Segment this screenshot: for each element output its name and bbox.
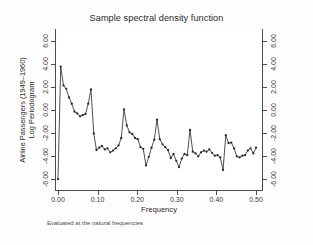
x-tick-label: 0.00 xyxy=(43,196,73,203)
x-tick xyxy=(58,191,59,195)
data-point xyxy=(137,138,139,140)
data-point xyxy=(57,178,59,180)
data-point xyxy=(247,149,249,151)
data-point xyxy=(238,156,240,158)
data-point xyxy=(192,151,194,153)
data-point xyxy=(123,108,125,110)
data-point xyxy=(241,155,243,157)
x-tick-label: 0.30 xyxy=(162,196,192,203)
data-point xyxy=(172,153,174,155)
data-point xyxy=(150,147,152,149)
data-point xyxy=(214,155,216,157)
data-point xyxy=(101,145,103,147)
data-point xyxy=(216,154,218,156)
data-point xyxy=(71,103,73,105)
data-point xyxy=(117,144,119,146)
data-point xyxy=(65,88,67,90)
x-tick xyxy=(256,191,257,195)
y-tick-label-right: -6.00 xyxy=(266,164,280,194)
data-point xyxy=(76,112,78,114)
data-point xyxy=(106,147,108,149)
data-point xyxy=(159,138,161,140)
data-point xyxy=(156,119,158,121)
y-tick-label-left: -6.00 xyxy=(38,164,52,194)
x-tick-label: 0.20 xyxy=(122,196,152,203)
data-point xyxy=(139,146,141,148)
data-point xyxy=(134,137,136,139)
y-axis-title: Airline Passengers (1949–1960) Log Perio… xyxy=(18,30,38,190)
data-point xyxy=(175,160,177,162)
data-point xyxy=(205,151,207,153)
data-point xyxy=(104,148,106,150)
y-axis-title-line2: Log Periodogram xyxy=(28,57,37,163)
data-point xyxy=(131,133,133,135)
data-point xyxy=(60,65,62,67)
x-tick-label: 0.50 xyxy=(241,196,271,203)
x-tick-label: 0.40 xyxy=(201,196,231,203)
data-point xyxy=(164,146,166,148)
x-tick-label: 0.10 xyxy=(83,196,113,203)
data-point xyxy=(167,149,169,151)
data-point xyxy=(120,137,122,139)
data-point xyxy=(87,103,89,105)
data-point xyxy=(126,124,128,126)
series-line xyxy=(58,67,256,180)
data-point xyxy=(153,139,155,141)
x-tick xyxy=(137,191,138,195)
data-point xyxy=(142,148,144,150)
x-tick xyxy=(98,191,99,195)
data-point xyxy=(230,141,232,143)
data-point xyxy=(68,96,70,98)
data-point xyxy=(219,156,221,158)
data-point xyxy=(79,115,81,117)
data-point xyxy=(189,129,191,131)
data-point xyxy=(194,152,196,154)
data-point xyxy=(112,149,114,151)
chart-figure: Sample spectral density function Airline… xyxy=(0,0,313,245)
y-axis-left-spine xyxy=(55,29,56,191)
data-point xyxy=(62,84,64,86)
series-plot xyxy=(56,30,262,190)
plot-area xyxy=(56,30,262,190)
data-point xyxy=(236,155,238,157)
chart-note: Evaluated at the natural frequencies xyxy=(47,220,143,226)
x-axis-title: Frequency xyxy=(56,205,262,214)
data-point xyxy=(233,147,235,149)
chart-title: Sample spectral density function xyxy=(0,13,313,23)
data-point xyxy=(200,151,202,153)
x-tick xyxy=(216,191,217,195)
data-point xyxy=(148,156,150,158)
data-point xyxy=(95,149,97,151)
data-point xyxy=(222,169,224,171)
data-point xyxy=(203,149,205,151)
data-point xyxy=(227,142,229,144)
data-point xyxy=(84,113,86,115)
data-point xyxy=(197,155,199,157)
data-point xyxy=(249,147,251,149)
data-point xyxy=(73,111,75,113)
data-point xyxy=(90,88,92,90)
x-tick xyxy=(177,191,178,195)
data-point xyxy=(115,147,117,149)
data-point xyxy=(181,157,183,159)
data-point xyxy=(109,151,111,153)
data-point xyxy=(186,154,188,156)
data-point xyxy=(170,157,172,159)
data-point xyxy=(211,152,213,154)
data-point xyxy=(82,114,84,116)
x-axis-spine xyxy=(55,190,263,191)
data-point xyxy=(252,152,254,154)
data-point xyxy=(178,166,180,168)
data-point xyxy=(208,148,210,150)
data-point xyxy=(128,131,130,133)
data-point xyxy=(255,147,257,149)
data-point xyxy=(93,132,95,134)
data-point xyxy=(183,153,185,155)
data-point xyxy=(98,147,100,149)
data-point xyxy=(225,134,227,136)
data-point xyxy=(244,154,246,156)
data-point xyxy=(161,143,163,145)
data-point xyxy=(145,164,147,166)
